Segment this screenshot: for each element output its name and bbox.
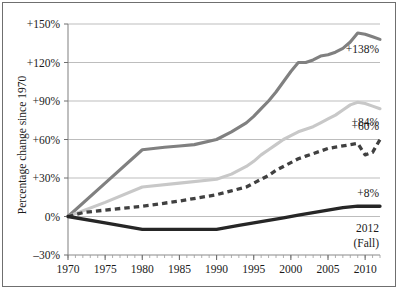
percentage-change-line-chart: +150%+120%+90%+60%+30%0%–30% 19701975198…: [0, 0, 399, 290]
series-line-series-black-solid: [68, 206, 380, 229]
series-line-series-dark-gray: [68, 33, 380, 217]
y-axis-title: Percentage change since 1970: [16, 76, 29, 215]
y-tick-label: –30%: [32, 249, 60, 261]
x-tick-label: 2000: [279, 263, 302, 275]
x-tick-label: 2005: [317, 263, 340, 275]
x-tick-label: 1975: [94, 263, 117, 275]
x-tick-label: 1990: [205, 263, 228, 275]
x-axis-tick-labels: 197019751980198519901995200020052010: [57, 263, 377, 275]
y-tick-label: +90%: [32, 95, 60, 107]
y-tick-label: 0%: [45, 211, 61, 223]
y-tick-label: +30%: [32, 172, 60, 184]
series-end-labels: +138%+84%+60%+8%: [346, 43, 380, 199]
x-tick-label: 1985: [168, 263, 191, 275]
y-tick-label: +120%: [27, 57, 61, 69]
x-tick-label: 1980: [131, 263, 154, 275]
y-axis-tick-labels: +150%+120%+90%+60%+30%0%–30%: [27, 18, 61, 261]
chart-figure: +150%+120%+90%+60%+30%0%–30% 19701975198…: [0, 0, 399, 290]
series-end-label-series-dark-gray: +138%: [346, 43, 380, 55]
series-end-label-series-dashed-dark: +60%: [351, 120, 379, 132]
y-tick-label: +150%: [27, 18, 61, 30]
x-tick-label: 1995: [242, 263, 265, 275]
series-line-series-light-gray: [68, 102, 380, 216]
x-tick-label: 2010: [354, 263, 377, 275]
end-annotation-season: (Fall): [353, 237, 379, 250]
end-annotation-year: 2012: [356, 222, 379, 234]
series-end-label-series-black-solid: +8%: [357, 187, 379, 199]
x-tick-label: 1970: [57, 263, 80, 275]
y-tick-label: +60%: [32, 134, 60, 146]
